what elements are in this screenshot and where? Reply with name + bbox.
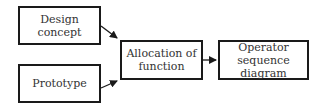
node-label: Design concept xyxy=(20,13,99,39)
arrow-design-to-allocation xyxy=(101,26,117,38)
arrow-prototype-to-allocation xyxy=(101,81,117,88)
node-label: Prototype xyxy=(32,77,87,90)
node-operator-sequence-diagram: Operator sequence diagram xyxy=(218,40,309,80)
node-label-line2: function xyxy=(126,60,196,73)
node-allocation-of-function: Allocation of function xyxy=(120,40,203,80)
node-label-line1: Operator sequence xyxy=(220,41,307,67)
node-design-concept: Design concept xyxy=(18,6,101,45)
node-prototype: Prototype xyxy=(18,64,101,103)
node-label-line1: Allocation of xyxy=(126,47,196,60)
node-label-line2: diagram xyxy=(220,67,307,80)
